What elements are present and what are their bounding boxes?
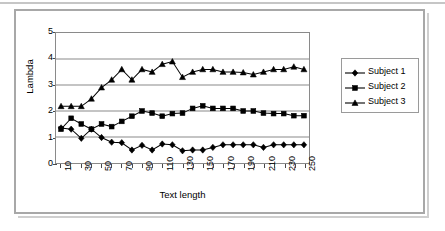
data-point-square: [170, 111, 175, 116]
x-tick-mark: [305, 164, 306, 168]
data-point-square: [353, 85, 358, 90]
legend-marker-square-icon: [344, 80, 366, 92]
data-point-diamond: [190, 147, 196, 153]
x-tick-mark: [295, 164, 296, 168]
data-point-diamond: [170, 142, 176, 148]
data-point-square: [271, 111, 276, 116]
data-point-square: [89, 127, 94, 132]
x-tick-mark: [254, 164, 255, 168]
plot-svg: [56, 33, 309, 163]
data-point-diamond: [291, 142, 297, 148]
y-tick-label: 0: [35, 159, 53, 168]
legend-label: Subject 3: [366, 96, 406, 106]
data-point-diamond: [119, 140, 125, 146]
data-point-diamond: [210, 144, 216, 150]
x-tick-mark: [101, 164, 102, 168]
x-tick-mark: [223, 164, 224, 168]
data-point-square: [281, 111, 286, 116]
data-point-square: [190, 106, 195, 111]
series-3: [58, 59, 307, 109]
data-point-diamond: [251, 142, 257, 148]
y-axis-ticks: 012345: [32, 32, 53, 164]
data-point-square: [150, 111, 155, 116]
x-axis-ticks: 1030507090110130150170190210230250: [55, 164, 310, 169]
x-tick-mark: [142, 164, 143, 168]
x-tick-mark: [193, 164, 194, 168]
legend-item-3[interactable]: Subject 3: [344, 93, 415, 108]
legend-item-2[interactable]: Subject 2: [344, 78, 415, 93]
x-tick-mark: [264, 164, 265, 168]
x-tick-mark: [70, 164, 71, 168]
data-point-square: [59, 127, 64, 132]
figure-root: Lambda 012345 10305070901101301501701902…: [0, 0, 445, 231]
data-point-square: [99, 122, 104, 127]
data-point-square: [140, 109, 145, 114]
data-point-triangle: [291, 64, 297, 69]
x-tick-mark: [213, 164, 214, 168]
data-point-square: [210, 106, 215, 111]
data-point-diamond: [240, 142, 246, 148]
data-point-diamond: [159, 141, 165, 147]
data-point-square: [241, 109, 246, 114]
data-point-triangle: [139, 66, 145, 71]
data-point-square: [180, 111, 185, 116]
data-point-square: [69, 116, 74, 121]
x-tick-mark: [285, 164, 286, 168]
data-point-square: [231, 106, 236, 111]
data-point-diamond: [129, 147, 135, 153]
data-point-diamond: [281, 142, 287, 148]
data-point-square: [291, 113, 296, 118]
chart-area: Lambda 012345 10305070901101301501701902…: [14, 9, 425, 214]
data-point-square: [119, 119, 124, 124]
data-point-diamond: [139, 142, 145, 148]
data-point-square: [200, 103, 205, 108]
x-tick-mark: [274, 164, 275, 168]
data-point-triangle: [180, 74, 186, 79]
data-point-square: [130, 114, 135, 119]
data-point-diamond: [261, 144, 267, 150]
data-point-square: [109, 124, 114, 129]
x-tick-mark: [132, 164, 133, 168]
x-tick-mark: [81, 164, 82, 168]
series-1: [58, 125, 306, 154]
x-tick-mark: [152, 164, 153, 168]
x-tick-mark: [172, 164, 173, 168]
y-tick-label: 1: [35, 133, 53, 142]
data-point-diamond: [200, 147, 206, 153]
legend-marker-triangle-icon: [344, 95, 366, 107]
x-tick-mark: [91, 164, 92, 168]
data-point-square: [302, 113, 307, 118]
x-tick-label: 250: [308, 156, 317, 171]
data-point-square: [251, 109, 256, 114]
data-point-square: [79, 122, 84, 127]
data-point-square: [221, 106, 226, 111]
series-line: [61, 62, 304, 107]
x-tick-mark: [121, 164, 122, 168]
data-point-diamond: [301, 142, 307, 148]
x-tick-mark: [203, 164, 204, 168]
legend-item-1[interactable]: Subject 1: [344, 63, 415, 78]
series-2: [59, 103, 307, 131]
data-point-diamond: [220, 142, 226, 148]
legend-label: Subject 2: [366, 81, 406, 91]
plot-area: [55, 32, 310, 164]
x-tick-mark: [60, 164, 61, 168]
series-line: [61, 106, 304, 129]
legend-label: Subject 1: [366, 66, 406, 76]
data-point-square: [261, 111, 266, 116]
data-point-diamond: [352, 69, 358, 75]
x-axis-title: Text length: [55, 189, 310, 200]
x-tick-mark: [162, 164, 163, 168]
x-tick-mark: [111, 164, 112, 168]
data-point-diamond: [180, 148, 186, 154]
y-tick-label: 2: [35, 106, 53, 115]
data-point-square: [160, 114, 165, 119]
data-point-diamond: [230, 142, 236, 148]
data-point-diamond: [271, 142, 277, 148]
y-tick-label: 5: [35, 27, 53, 36]
y-tick-label: 4: [35, 53, 53, 62]
x-tick-mark: [183, 164, 184, 168]
x-tick-mark: [244, 164, 245, 168]
data-point-diamond: [109, 139, 115, 145]
y-tick-label: 3: [35, 80, 53, 89]
